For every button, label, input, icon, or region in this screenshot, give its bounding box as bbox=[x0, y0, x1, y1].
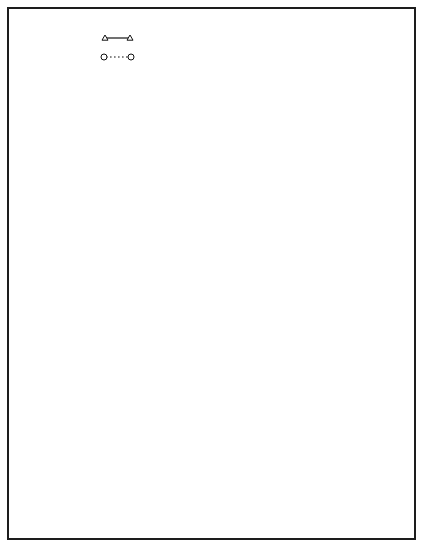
figure-canvas bbox=[0, 0, 425, 549]
plot-drawing-surface bbox=[0, 0, 425, 549]
